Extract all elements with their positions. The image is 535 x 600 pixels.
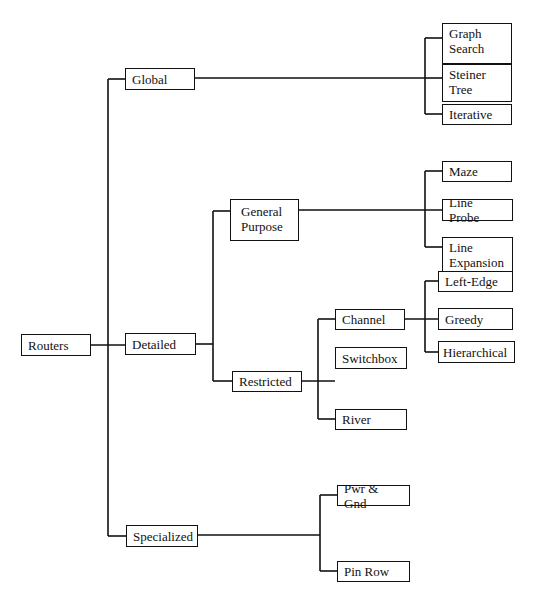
node-routers: Routers: [21, 334, 91, 356]
node-greedy: Greedy: [438, 308, 513, 330]
node-restricted: Restricted: [232, 371, 302, 392]
node-general-purpose: General Purpose: [230, 199, 299, 241]
node-steiner-tree: Steiner Tree: [442, 64, 512, 102]
node-graph-search: Graph Search: [442, 23, 512, 64]
node-pin-row: Pin Row: [337, 561, 410, 582]
node-specialized: Specialized: [126, 525, 198, 547]
node-detailed: Detailed: [125, 333, 196, 355]
node-river: River: [335, 409, 407, 430]
node-maze: Maze: [442, 161, 512, 182]
node-pwr-gnd: Pwr & Gnd: [337, 485, 410, 506]
node-left-edge: Left-Edge: [438, 271, 513, 292]
router-taxonomy-diagram: Routers Global Detailed Specialized Grap…: [0, 0, 535, 600]
node-line-probe: Line Probe: [442, 199, 513, 221]
node-global: Global: [125, 68, 195, 90]
node-hierarchical: Hierarchical: [438, 341, 515, 363]
node-switchbox: Switchbox: [335, 347, 407, 369]
node-channel: Channel: [335, 309, 405, 330]
node-line-expansion: Line Expansion: [442, 237, 513, 274]
node-iterative: Iterative: [442, 104, 512, 125]
